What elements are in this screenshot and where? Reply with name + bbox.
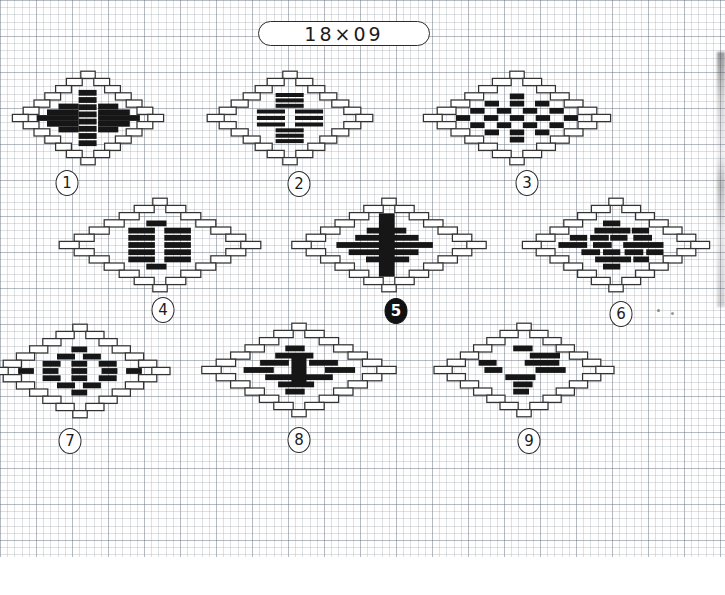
motif-number-5: 5 — [385, 298, 408, 324]
motif-number-6: 6 — [610, 301, 633, 327]
motif-number-4: 4 — [152, 297, 175, 323]
scan-specks — [657, 309, 660, 312]
motif-8 — [202, 323, 396, 417]
motif-number-9: 9 — [518, 428, 541, 454]
motif-number-8: 8 — [288, 427, 311, 453]
motif-1 — [12, 71, 163, 165]
motif-7 — [0, 324, 170, 418]
motif-number-7: 7 — [59, 428, 82, 454]
motif-9 — [434, 323, 614, 417]
motif-3 — [423, 71, 610, 165]
motif-number-3: 3 — [516, 170, 539, 196]
motif-number-2: 2 — [288, 171, 311, 197]
motif-4 — [59, 198, 261, 292]
motif-2 — [207, 71, 373, 165]
motif-6 — [522, 198, 709, 292]
pattern-book-page: 18×09 123456789 — [0, 0, 725, 595]
motif-diagram-layer — [0, 0, 725, 595]
scan-edge-smudge — [717, 52, 725, 307]
motif-number-1: 1 — [56, 170, 79, 196]
motif-5 — [292, 198, 486, 292]
